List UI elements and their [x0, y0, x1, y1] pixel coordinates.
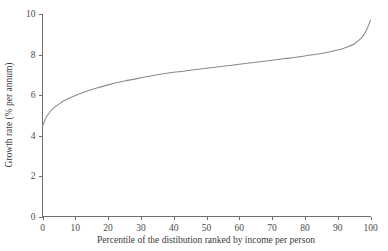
chart-figure: 0246810 0102030405060708090100 Percentil…: [0, 0, 388, 251]
y-tick-label: 2: [31, 171, 36, 181]
x-tick-label: 20: [103, 223, 113, 233]
x-tick-label: 50: [202, 223, 212, 233]
y-tick-label: 10: [26, 9, 36, 19]
y-tick-label: 0: [31, 212, 36, 222]
y-tick-label: 6: [31, 90, 36, 100]
x-tick-label: 30: [136, 223, 146, 233]
chart-background: [0, 0, 388, 251]
y-tick-label: 4: [31, 131, 36, 141]
x-axis-title: Percentile of the distibution ranked by …: [97, 235, 315, 245]
x-tick-label: 90: [333, 223, 343, 233]
x-tick-label: 60: [235, 223, 245, 233]
x-tick-label: 10: [71, 223, 81, 233]
x-tick-label: 70: [267, 223, 277, 233]
x-tick-label: 100: [363, 223, 378, 233]
chart-canvas: 0246810 0102030405060708090100 Percentil…: [0, 0, 388, 251]
x-tick-label: 0: [40, 223, 45, 233]
y-tick-label: 8: [31, 50, 36, 60]
x-tick-label: 40: [169, 223, 179, 233]
y-axis-title: Growth rate (% per annum): [4, 63, 15, 168]
x-tick-label: 80: [300, 223, 310, 233]
